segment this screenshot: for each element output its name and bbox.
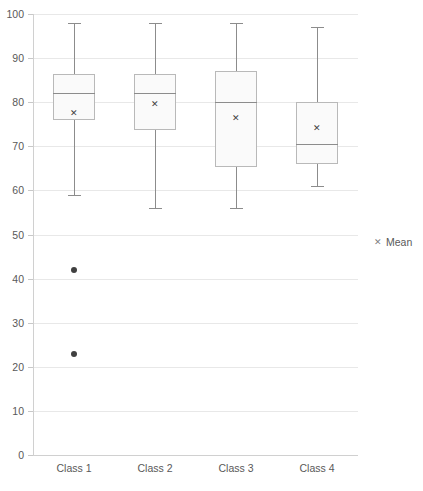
y-gridline	[33, 14, 358, 15]
y-gridline	[33, 367, 358, 368]
whisker-lower	[74, 120, 75, 195]
y-gridline	[33, 190, 358, 191]
chart-legend: ✕Mean	[374, 237, 412, 248]
whisker-upper	[317, 27, 318, 102]
whisker-lower	[155, 130, 156, 208]
median-line	[215, 102, 257, 103]
outlier-point	[71, 351, 77, 357]
whisker-cap-upper	[149, 23, 162, 24]
y-axis-tick-label: 50	[0, 230, 24, 241]
x-axis-tick-label-1: Class 1	[29, 463, 119, 474]
whisker-cap-upper	[68, 23, 81, 24]
x-axis-tick-label-4: Class 4	[272, 463, 362, 474]
y-axis-tick-label: 40	[0, 274, 24, 285]
mean-marker: ✕	[68, 109, 80, 118]
y-axis-tick-label: 0	[0, 450, 24, 461]
y-axis-tick-label: 80	[0, 97, 24, 108]
whisker-lower	[317, 164, 318, 186]
box-4	[296, 102, 338, 164]
median-line	[296, 144, 338, 145]
whisker-upper	[74, 23, 75, 74]
y-gridline	[33, 235, 358, 236]
whisker-cap-upper	[230, 23, 243, 24]
mean-marker: ✕	[311, 124, 323, 133]
y-axis-tick-label: 20	[0, 362, 24, 373]
whisker-upper	[236, 23, 237, 71]
x-mark-icon: ✕	[374, 238, 382, 247]
whisker-cap-lower	[311, 186, 324, 187]
x-axis-tick-label-2: Class 2	[110, 463, 200, 474]
x-axis-tick-label-3: Class 3	[191, 463, 281, 474]
y-axis-line	[33, 14, 34, 456]
y-axis-tick-label: 70	[0, 141, 24, 152]
mean-marker: ✕	[230, 114, 242, 123]
y-gridline	[33, 58, 358, 59]
box-plot-chart: 0102030405060708090100✕Class 1✕Class 2✕C…	[0, 0, 423, 491]
median-line	[134, 93, 176, 94]
whisker-cap-lower	[68, 195, 81, 196]
outlier-point	[71, 267, 77, 273]
y-axis-tick-label: 90	[0, 53, 24, 64]
whisker-cap-lower	[149, 208, 162, 209]
y-gridline	[33, 411, 358, 412]
whisker-cap-upper	[311, 27, 324, 28]
y-axis-tick-label: 30	[0, 318, 24, 329]
whisker-lower	[236, 167, 237, 208]
whisker-upper	[155, 23, 156, 74]
whisker-cap-lower	[230, 208, 243, 209]
y-gridline	[33, 455, 358, 456]
median-line	[53, 93, 95, 94]
y-gridline	[33, 279, 358, 280]
y-axis-tick-label: 60	[0, 185, 24, 196]
legend-entry-label: Mean	[386, 237, 412, 248]
mean-marker: ✕	[149, 100, 161, 109]
y-axis-tick-label: 10	[0, 406, 24, 417]
y-gridline	[33, 323, 358, 324]
y-axis-tick-label: 100	[0, 9, 24, 20]
